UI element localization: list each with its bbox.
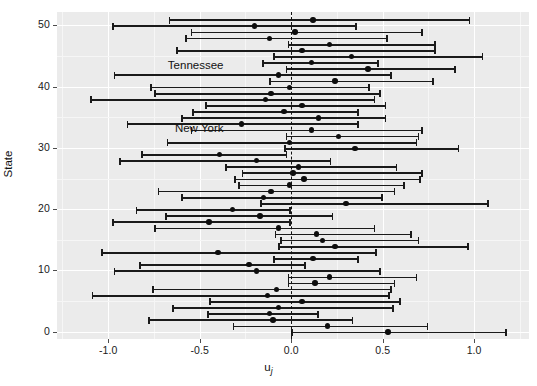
x-tick-mark [474,339,475,343]
interval-cap-upper [374,225,376,232]
interval-row [176,50,436,51]
estimate-point [296,164,301,169]
interval-cap-lower [152,286,154,293]
estimate-point [230,207,235,212]
interval-bar [207,313,319,315]
interval-cap-upper [410,231,412,238]
interval-row [139,264,305,265]
estimate-point [343,201,348,206]
interval-cap-lower [242,170,244,177]
interval-bar [152,289,392,291]
interval-cap-lower [139,262,141,269]
estimate-point [267,36,272,41]
y-tick-label: 10 [10,263,50,275]
interval-bar [286,136,420,138]
interval-row [260,203,489,204]
estimate-point [325,323,330,328]
interval-bar [92,295,390,297]
interval-row [152,289,392,290]
interval-bar [286,68,456,70]
y-tick-label: 50 [10,18,50,30]
estimate-point [332,78,337,83]
estimate-point [276,72,281,77]
interval-row [262,62,379,63]
estimate-point [320,238,325,243]
interval-cap-lower [225,164,227,171]
interval-cap-lower [238,182,240,189]
interval-cap-upper [357,256,359,263]
zero-reference-line [291,12,292,339]
estimate-point [312,280,317,285]
interval-bar [150,87,370,89]
estimate-point [263,97,268,102]
interval-cap-lower [209,298,211,305]
interval-cap-upper [394,188,396,195]
interval-row [269,81,434,82]
interval-bar [114,74,392,76]
interval-row [191,32,423,33]
interval-cap-lower [172,305,174,312]
interval-bar [269,81,434,83]
interval-row [280,240,419,241]
x-tick-label: 0.5 [358,344,408,356]
interval-cap-upper [379,90,381,97]
interval-cap-upper [418,133,420,140]
interval-row [181,197,382,198]
interval-row [148,319,353,320]
gridline-y-major [57,209,529,210]
estimate-point [254,158,259,163]
interval-cap-upper [390,286,392,293]
interval-cap-lower [154,225,156,232]
interval-bar [275,234,412,236]
interval-cap-lower [176,47,178,54]
interval-cap-upper [332,213,334,220]
y-tick-label: 20 [10,202,50,214]
interval-cap-upper [392,305,394,312]
interval-row [207,313,319,314]
interval-bar [119,160,331,162]
estimate-point [254,268,259,273]
interval-cap-upper [419,176,421,183]
interval-row [154,228,375,229]
interval-bar [192,111,358,113]
estimate-point [267,311,272,316]
interval-cap-upper [374,96,376,103]
interval-row [234,179,421,180]
interval-cap-upper [386,35,388,42]
interval-cap-lower [288,280,290,287]
interval-bar [205,105,386,107]
interval-cap-upper [416,139,418,146]
interval-cap-lower [92,292,94,299]
estimate-point [309,60,314,65]
interval-bar [233,326,429,328]
y-tick-mark [53,332,57,333]
interval-row [238,185,404,186]
interval-cap-lower [286,133,288,140]
interval-row [90,99,375,100]
y-tick-mark [53,209,57,210]
interval-cap-upper [304,262,306,269]
estimate-point [327,274,332,279]
interval-cap-upper [421,29,423,36]
interval-row [191,130,423,131]
interval-cap-upper [394,280,396,287]
interval-cap-lower [112,23,114,30]
interval-row [242,172,423,173]
interval-bar [288,277,418,279]
interval-cap-upper [317,311,319,318]
interval-row [233,326,429,327]
interval-row [288,277,418,278]
interval-cap-lower [112,219,114,226]
interval-cap-lower [119,158,121,165]
interval-bar [191,32,423,34]
interval-cap-upper [355,23,357,30]
interval-cap-lower [278,243,280,250]
estimate-point [265,293,270,298]
estimate-point [268,189,273,194]
interval-bar [284,148,460,150]
interval-cap-upper [357,109,359,116]
interval-cap-upper [427,323,429,330]
interval-bar [181,117,386,119]
estimate-point [274,287,279,292]
interval-cap-lower [154,90,156,97]
